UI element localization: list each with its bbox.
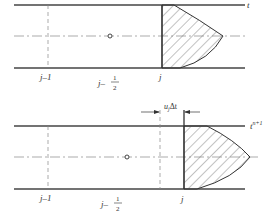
time-label: t [247,0,250,10]
label-j-minus-1: j–1 [39,193,52,203]
panel-time-n-plus-1: ujΔt tn+1 j–1 j– 1 2 j [14,102,263,213]
svg-text:2: 2 [116,205,120,213]
svg-text:j–: j– [100,199,109,209]
svg-text:1: 1 [116,195,120,203]
time-label: tn+1 [250,120,263,131]
label-j-minus-half: j– 1 2 [97,74,119,92]
displacement-label: ujΔt [164,102,178,112]
label-j-minus-half: j– 1 2 [100,195,122,213]
label-j-minus-1: j–1 [39,72,52,82]
svg-text:j–: j– [97,78,106,88]
velocity-profile [162,5,223,68]
cell-center-node [125,155,129,159]
svg-text:1: 1 [113,74,117,82]
cell-center-node [108,34,112,38]
label-j: j [158,72,162,82]
label-j: j [180,194,184,204]
velocity-profile [184,126,250,189]
panel-time-n: t j–1 j– 1 2 j [14,0,250,92]
displacement-dimension: ujΔt [141,102,200,114]
diagram: t j–1 j– 1 2 j ujΔt tn+1 j–1 j– [0,0,278,214]
svg-text:2: 2 [113,84,117,92]
